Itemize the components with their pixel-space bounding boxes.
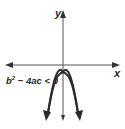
discriminant-condition: b2 − 4ac < 0 (6, 76, 58, 86)
condition-rest: − 4ac < 0 (15, 75, 58, 86)
parabola-right-arrow-icon (75, 110, 83, 121)
coordinate-plane: y x b2 − 4ac < 0 (0, 0, 125, 129)
y-axis-down-arrow-icon (61, 115, 65, 121)
parabola-left-arrow-icon (43, 110, 51, 121)
graph-svg (0, 0, 125, 129)
y-axis-label: y (55, 8, 61, 19)
x-axis-label: x (114, 68, 120, 79)
x-axis-left-arrow-icon (5, 62, 13, 68)
